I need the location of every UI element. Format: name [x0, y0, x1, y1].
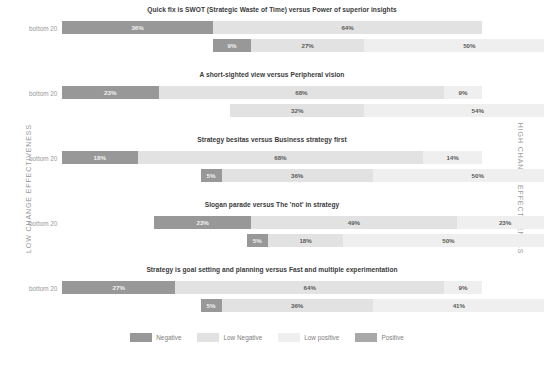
panel-title: Quick fix is SWOT (Strategic Waste of Ti…: [0, 6, 544, 13]
bar-segment: 68%: [138, 151, 424, 164]
bar-segment: 50%: [364, 39, 544, 52]
bar-row: top 209%27%50%14%: [0, 38, 544, 56]
bar-segment: 5%: [201, 169, 222, 182]
bar-segment: 18%: [268, 234, 344, 247]
legend-swatch-icon: [130, 333, 152, 342]
panel-title: Strategy besitas versus Business strateg…: [0, 136, 544, 143]
legend-swatch-icon: [197, 333, 219, 342]
chart-panel: Quick fix is SWOT (Strategic Waste of Ti…: [0, 0, 544, 65]
bar-row: bottom 2027%64%9%: [0, 280, 544, 298]
bar-segment: 68%: [159, 86, 445, 99]
bar-segment: 64%: [213, 21, 482, 34]
bar-segment: 27%: [62, 281, 175, 294]
chart-panel: Strategy besitas versus Business strateg…: [0, 130, 544, 195]
chart-panel: Strategy is goal setting and planning ve…: [0, 260, 544, 325]
stacked-bar: 5%36%50%9%: [201, 169, 544, 182]
legend-label: Low positive: [304, 334, 339, 341]
stacked-bar: 9%27%50%14%: [213, 39, 544, 52]
legend-item: Low Negative: [197, 333, 262, 342]
bar-segment: 23%: [62, 86, 159, 99]
stacked-bar: 23%49%23%5%: [154, 216, 544, 229]
bar-segment: 36%: [222, 299, 373, 312]
row-label-bottom-20: bottom 20: [29, 155, 57, 162]
panel-title: Slogan parade versus The 'not' in strate…: [0, 201, 544, 208]
stacked-bar: 18%68%14%: [62, 151, 482, 164]
panel-rows: bottom 2023%68%9%top 2032%54%14%: [0, 85, 544, 121]
chart-panel: Slogan parade versus The 'not' in strate…: [0, 195, 544, 260]
panel-rows: bottom 2018%68%14%top 205%36%50%9%: [0, 150, 544, 186]
panel-rows: bottom 2023%49%23%5%top 205%18%50%27%: [0, 215, 544, 251]
bar-row: bottom 2036%64%: [0, 20, 544, 38]
bar-row: top 205%36%41%18%: [0, 298, 544, 316]
stacked-bar: 23%68%9%: [62, 86, 482, 99]
bar-segment: 9%: [444, 86, 482, 99]
panel-title: Strategy is goal setting and planning ve…: [0, 266, 544, 273]
legend-label: Low Negative: [223, 334, 262, 341]
panel-title: A short-sighted view versus Peripheral v…: [0, 71, 544, 78]
panel-rows: bottom 2036%64%top 209%27%50%14%: [0, 20, 544, 56]
bar-segment: 50%: [343, 234, 544, 247]
bar-segment: 23%: [154, 216, 251, 229]
bar-row: bottom 2018%68%14%: [0, 150, 544, 168]
bar-segment: 36%: [222, 169, 373, 182]
panel-rows: bottom 2027%64%9%top 205%36%41%18%: [0, 280, 544, 316]
row-label-bottom-20: bottom 20: [29, 285, 57, 292]
row-label-bottom-20: bottom 20: [29, 90, 57, 97]
bar-segment: 36%: [62, 21, 213, 34]
chart-page: LOW CHANGE EFFECTIVENESS HIGH CHANGE EFF…: [0, 0, 544, 378]
stacked-bar: 36%64%: [62, 21, 482, 34]
bar-segment: 9%: [213, 39, 251, 52]
bar-row: top 205%36%50%9%: [0, 168, 544, 186]
bar-segment: 5%: [247, 234, 268, 247]
panel-list: Quick fix is SWOT (Strategic Waste of Ti…: [0, 0, 544, 325]
bar-segment: 5%: [201, 299, 222, 312]
bar-segment: 18%: [62, 151, 138, 164]
legend-item: Low positive: [278, 333, 339, 342]
stacked-bar: 27%64%9%: [62, 281, 482, 294]
chart-panel: A short-sighted view versus Peripheral v…: [0, 65, 544, 130]
legend-label: Negative: [156, 334, 181, 341]
stacked-bar: 5%36%41%18%: [201, 299, 544, 312]
bar-segment: 23%: [457, 216, 544, 229]
legend-item: Negative: [130, 333, 181, 342]
bar-segment: 32%: [230, 104, 364, 117]
bar-segment: 27%: [251, 39, 364, 52]
bar-segment: 14%: [423, 151, 482, 164]
legend-swatch-icon: [278, 333, 300, 342]
bar-segment: 64%: [175, 281, 444, 294]
stacked-bar: 5%18%50%27%: [247, 234, 544, 247]
legend-item: Positive: [355, 333, 403, 342]
bar-segment: 41%: [373, 299, 544, 312]
legend-swatch-icon: [355, 333, 377, 342]
bar-segment: 54%: [364, 104, 544, 117]
bar-row: bottom 2023%68%9%: [0, 85, 544, 103]
bar-segment: 9%: [444, 281, 482, 294]
chart-legend: NegativeLow NegativeLow positivePositive: [0, 333, 544, 342]
row-label-bottom-20: bottom 20: [29, 25, 57, 32]
stacked-bar: 32%54%14%: [230, 104, 544, 117]
bar-row: bottom 2023%49%23%5%: [0, 215, 544, 233]
bar-row: top 2032%54%14%: [0, 103, 544, 121]
bar-row: top 205%18%50%27%: [0, 233, 544, 251]
row-label-bottom-20: bottom 20: [29, 220, 57, 227]
legend-label: Positive: [381, 334, 403, 341]
bar-segment: 49%: [251, 216, 457, 229]
bar-segment: 50%: [373, 169, 544, 182]
